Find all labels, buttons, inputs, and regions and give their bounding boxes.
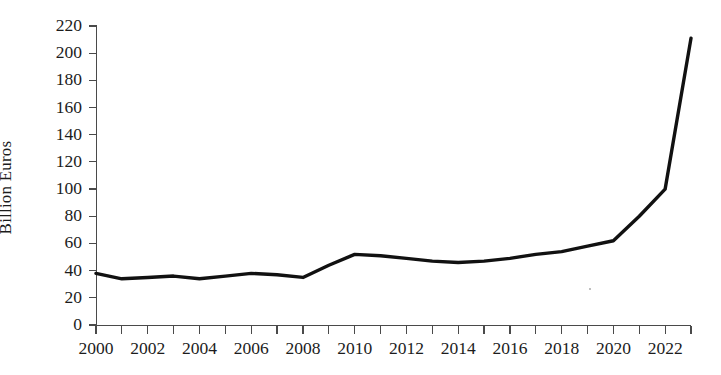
- line-chart: Billion Euros 02040608010012014016018020…: [0, 0, 721, 375]
- paper-speck-artifact: [589, 288, 591, 290]
- data-series-line: [96, 38, 691, 279]
- plot-area: [0, 0, 721, 375]
